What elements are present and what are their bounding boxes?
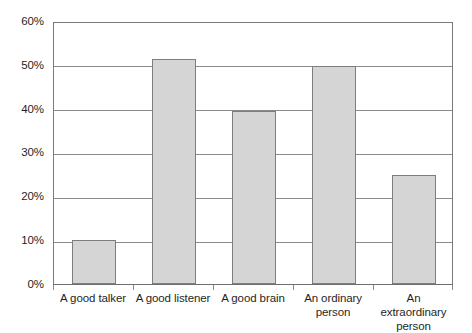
x-tick-5: [452, 285, 453, 290]
x-label-an-extraordinary-person: An extraordinary person: [376, 291, 451, 333]
x-tick-1: [133, 285, 134, 290]
x-tick-4: [373, 285, 374, 290]
bar-a-good-listener: [152, 59, 196, 284]
plot-area: [53, 22, 453, 285]
y-tick-label-10: 10%: [0, 235, 44, 247]
x-tick-0: [53, 285, 54, 290]
x-label-an-ordinary-person: An ordinary person: [299, 291, 367, 319]
y-tick-label-40: 40%: [0, 104, 44, 116]
y-tick-label-0: 0%: [0, 279, 44, 291]
bar-an-ordinary-person: [312, 66, 356, 284]
x-label-a-good-talker: A good talker: [53, 291, 133, 305]
y-axis: 60% 50% 40% 30% 20% 10% 0%: [0, 0, 49, 329]
y-tick-label-20: 20%: [0, 191, 44, 203]
bar-a-good-talker: [72, 240, 116, 284]
bars-layer: [54, 23, 452, 284]
y-tick-label-30: 30%: [0, 147, 44, 159]
bar-slot-an-extraordinary-person: [374, 23, 454, 284]
y-tick-label-50: 50%: [0, 60, 44, 72]
x-tick-2: [213, 285, 214, 290]
bar-slot-a-good-listener: [134, 23, 214, 284]
x-label-a-good-brain: A good brain: [213, 291, 293, 305]
bar-slot-a-good-talker: [54, 23, 134, 284]
bar-slot-a-good-brain: [214, 23, 294, 284]
x-label-a-good-listener: A good listener: [131, 291, 215, 305]
x-axis-labels: A good talker A good listener A good bra…: [53, 291, 453, 329]
x-tick-3: [293, 285, 294, 290]
y-tick-label-60: 60%: [0, 16, 44, 28]
bar-an-extraordinary-person: [392, 175, 436, 284]
bar-slot-an-ordinary-person: [294, 23, 374, 284]
bar-a-good-brain: [232, 111, 276, 284]
